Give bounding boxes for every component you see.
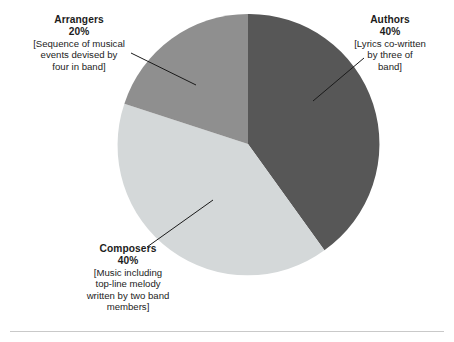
slice-label-arrangers-description: [Sequence of musical events devised by f… <box>6 38 152 72</box>
slice-label-authors: Authors 40% [Lyrics co-written by three … <box>330 14 450 72</box>
slice-label-authors-description: [Lyrics co-written by three of band] <box>330 38 450 72</box>
slice-label-authors-percent: 40% <box>330 26 450 38</box>
bottom-divider <box>10 331 444 332</box>
slice-label-arrangers: Arrangers 20% [Sequence of musical event… <box>6 14 152 72</box>
slice-label-authors-title: Authors <box>330 14 450 26</box>
pie-chart-figure: Arrangers 20% [Sequence of musical event… <box>0 0 454 342</box>
slice-label-composers-description: [Music including top-line melody written… <box>48 267 208 312</box>
slice-label-arrangers-percent: 20% <box>6 26 152 38</box>
slice-label-arrangers-title: Arrangers <box>6 14 152 26</box>
slice-label-composers: Composers 40% [Music including top-line … <box>48 243 208 312</box>
slice-label-composers-title: Composers <box>48 243 208 255</box>
slice-label-composers-percent: 40% <box>48 255 208 267</box>
